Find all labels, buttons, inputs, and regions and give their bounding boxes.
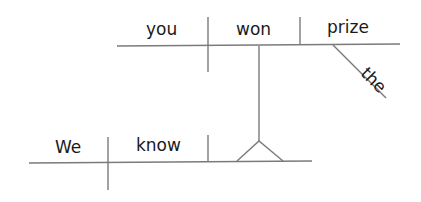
clause-baseline	[117, 44, 400, 46]
clause-object-word: prize	[327, 17, 369, 37]
clause-verb-word: won	[236, 19, 271, 39]
clause-pedestal	[237, 141, 283, 161]
main-subject-word: We	[55, 137, 81, 157]
main-baseline	[29, 161, 312, 163]
main-verb-word: know	[136, 135, 181, 155]
clause-subject-word: you	[146, 19, 177, 39]
sentence-diagram: you won prize the We know	[0, 0, 421, 202]
